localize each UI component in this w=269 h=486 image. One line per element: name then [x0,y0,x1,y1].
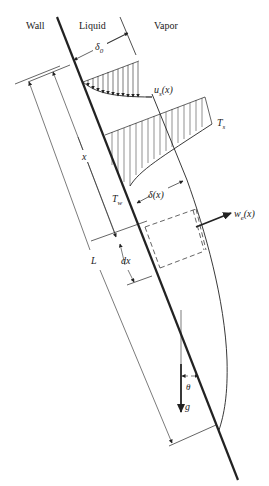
film-interface-line [152,94,227,430]
g-label: g [185,401,190,412]
L-label: L [90,255,97,266]
dx-ref-line-bottom [127,276,152,285]
dx-arrow-down [128,270,134,282]
us-label: us(x) [154,84,174,98]
L-ref-line-top [15,66,60,84]
theta-label: θ [186,382,191,392]
delta-x-arrow-right [168,181,183,188]
Ts-label: Ts [217,117,226,131]
wall-label: Wall [26,20,45,31]
dx-label: dx [121,255,131,266]
vapor-label: Vapor [154,20,179,31]
L-dim-line-up [29,82,90,250]
film-condensation-diagram: Wall Liquid Vapor δ0 us(x) [0,0,269,486]
we-label: we(x) [234,208,256,222]
x-label: x [81,151,87,162]
dx-ref-line-top [91,221,147,241]
wall-line [57,17,238,480]
diagram-svg: Wall Liquid Vapor δ0 us(x) [0,0,269,486]
delta-x-label: δ(x) [148,189,164,201]
liquid-label: Liquid [79,20,106,31]
velocity-profile [83,61,152,97]
L-dim-line-down [100,270,172,443]
Tw-label: Tw [112,193,123,207]
x-ref-line-top [28,65,70,82]
L-ref-line-bottom [169,425,216,446]
we-arrow [196,213,231,227]
control-volume [145,209,206,268]
